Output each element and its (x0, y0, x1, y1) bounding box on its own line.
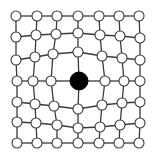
grid-node (52, 11, 62, 21)
grid-node (31, 30, 41, 40)
grid-node (73, 104, 83, 114)
grid-node (52, 120, 62, 130)
grid-node (135, 76, 145, 86)
grid-node (12, 76, 22, 86)
grid-node (52, 138, 62, 148)
center-mass-node (70, 72, 88, 90)
grid-node (31, 118, 41, 128)
grid-node (135, 33, 145, 43)
grid-graph-diagram (0, 0, 157, 155)
grid-node (135, 55, 145, 65)
grid-node (95, 122, 105, 132)
grid-node (115, 31, 125, 41)
grid-node (48, 49, 58, 59)
grid-node (119, 76, 129, 86)
grid-node (114, 11, 124, 21)
grid-node (30, 99, 40, 109)
grid-node (134, 138, 144, 148)
grid-node (73, 138, 83, 148)
grid-node (46, 76, 56, 86)
grid-node (114, 138, 124, 148)
grid-node (12, 138, 22, 148)
grid-node (100, 76, 110, 86)
grid-node (95, 30, 105, 40)
grid-node (117, 98, 127, 108)
grid-node (12, 97, 22, 107)
grid-node (73, 47, 83, 57)
grid-node (73, 123, 83, 133)
grid-node (28, 76, 38, 86)
grid-node (32, 11, 42, 21)
grid-node (49, 101, 59, 111)
grid-node (115, 120, 125, 130)
grid-node (11, 55, 21, 65)
grid-node (73, 11, 83, 21)
grid-node (73, 28, 83, 38)
grid-node (97, 100, 107, 110)
grid-node (94, 138, 104, 148)
grid-node (97, 51, 107, 61)
grid-node (117, 53, 127, 63)
grid-node (32, 138, 42, 148)
grid-node (11, 11, 21, 21)
grid-node (134, 11, 144, 21)
grid-node (51, 29, 61, 39)
grid-node (11, 32, 21, 42)
grid-node (135, 118, 145, 128)
grid-node (94, 11, 104, 21)
grid-node (30, 52, 40, 62)
grid-node (12, 117, 22, 127)
grid-nodes (11, 11, 145, 148)
grid-node (135, 97, 145, 107)
